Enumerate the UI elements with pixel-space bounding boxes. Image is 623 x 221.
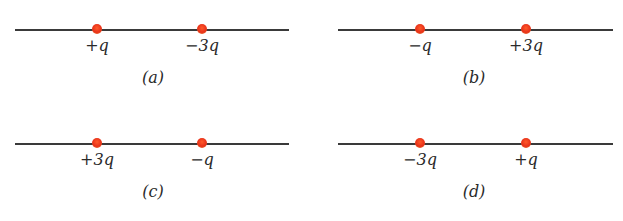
charge-dot-icon [197,138,207,148]
panel-caption: (a) [142,70,164,86]
panel-d: −3q +q (d) [311,110,622,220]
charge-label: +q [514,152,538,168]
charge-dot-icon [415,138,425,148]
charge-dot-icon [415,24,425,34]
axis-line [338,29,613,31]
charge-dot-icon [92,24,102,34]
charge-dot-icon [92,138,102,148]
axis-line [15,143,289,145]
panel-caption: (b) [463,70,486,86]
charge-label: +3q [80,152,114,168]
panel-caption: (c) [142,184,163,200]
charge-label: −q [408,38,432,54]
charge-dot-icon [521,138,531,148]
charge-dot-icon [197,24,207,34]
charge-dot-icon [521,24,531,34]
panel-c: +3q −q (c) [0,110,311,220]
charge-label: −3q [403,152,437,168]
axis-line [15,29,289,31]
axis-line [338,143,613,145]
charge-label: −q [190,152,214,168]
charge-label: +3q [509,38,543,54]
charge-label: +q [85,38,109,54]
panel-caption: (d) [463,184,486,200]
panel-a: +q −3q (a) [0,0,311,110]
charge-label: −3q [185,38,219,54]
panel-b: −q +3q (b) [311,0,622,110]
